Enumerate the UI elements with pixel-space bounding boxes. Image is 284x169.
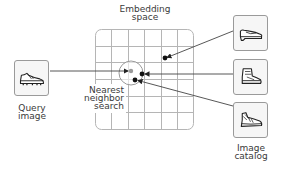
- running-sneaker-icon: [234, 103, 267, 137]
- catalog-item-3[interactable]: [233, 102, 268, 138]
- label-line: image: [10, 112, 54, 120]
- image-catalog-label: Image catalog: [228, 144, 274, 160]
- query-point: [129, 69, 133, 73]
- embedding-grid: [96, 30, 194, 130]
- diagram-canvas: Embedding space Nearest neighbor search …: [0, 0, 284, 169]
- catalog-point-3: [133, 78, 138, 83]
- loafer-shoe-icon: [234, 16, 267, 50]
- catalog-item-2[interactable]: [233, 59, 268, 95]
- embedding-space-label: Embedding space: [115, 5, 175, 21]
- label-line: space: [115, 13, 175, 21]
- query-image-label: Query image: [10, 104, 54, 120]
- high-top-sneaker-icon: [234, 60, 267, 94]
- catalog-item-1[interactable]: [233, 15, 268, 51]
- catalog-point-1: [163, 56, 168, 61]
- label-line: search: [76, 102, 124, 110]
- cleat-shoe-icon: [15, 61, 48, 95]
- nearest-neighbor-label: Nearest neighbor search: [76, 86, 124, 110]
- query-image-box: [14, 60, 49, 96]
- label-line: catalog: [228, 152, 274, 160]
- catalog-point-2: [140, 72, 145, 77]
